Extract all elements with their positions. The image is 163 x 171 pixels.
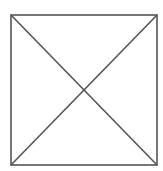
- diagram-canvas: [0, 0, 163, 171]
- square-diagonals-figure: [0, 0, 163, 171]
